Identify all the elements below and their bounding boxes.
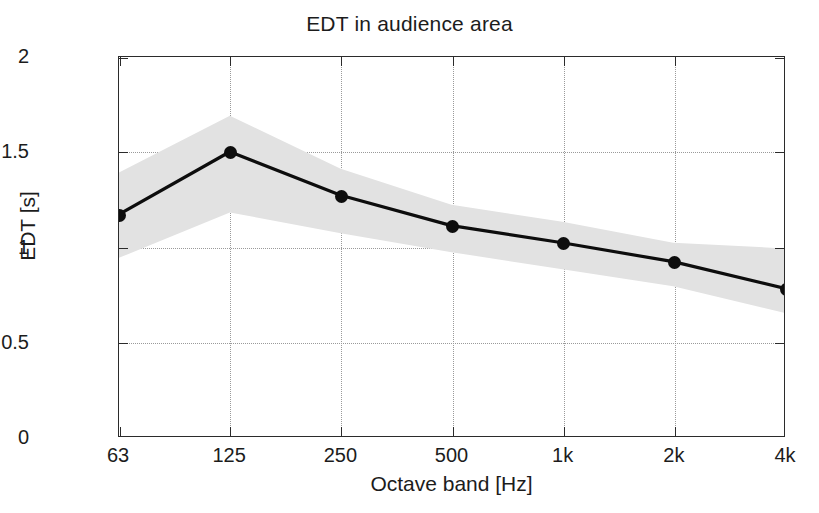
plot-area (118, 56, 785, 437)
x-tick-mark (453, 57, 454, 66)
data-line (119, 57, 784, 436)
chart-figure: EDT in audience area 00.511.52 631252505… (0, 0, 819, 513)
y-tick-mark (119, 58, 128, 59)
x-tick-label: 125 (212, 444, 245, 467)
data-point-marker (224, 146, 237, 159)
y-tick-mark (775, 248, 784, 249)
y-tick-mark (119, 248, 128, 249)
data-point-marker (335, 190, 348, 203)
x-tick-label: 1k (552, 444, 573, 467)
chart-title: EDT in audience area (0, 12, 819, 36)
x-tick-label: 250 (324, 444, 357, 467)
x-tick-mark (675, 427, 676, 436)
x-tick-mark (675, 57, 676, 66)
y-tick-label: 2 (0, 45, 29, 68)
data-point-marker (118, 209, 126, 222)
y-tick-mark (775, 343, 784, 344)
x-axis-label: Octave band [Hz] (118, 472, 785, 496)
x-tick-mark (341, 427, 342, 436)
y-tick-mark (119, 152, 128, 153)
y-axis-label: EDT [s] (16, 136, 40, 316)
x-tick-label: 63 (107, 444, 129, 467)
x-tick-label: 2k (663, 444, 684, 467)
y-tick-label: 0 (0, 426, 29, 449)
y-tick-mark (775, 152, 784, 153)
x-tick-mark (453, 427, 454, 436)
x-tick-mark (564, 57, 565, 66)
x-tick-mark (120, 427, 121, 436)
x-tick-mark (230, 427, 231, 436)
x-tick-label: 4k (774, 444, 795, 467)
x-tick-mark (564, 427, 565, 436)
x-tick-mark (341, 57, 342, 66)
x-tick-mark (230, 57, 231, 66)
y-tick-label: 0.5 (0, 330, 29, 353)
y-tick-mark (775, 58, 784, 59)
y-tick-mark (119, 343, 128, 344)
x-tick-label: 500 (435, 444, 468, 467)
data-point-marker (446, 220, 459, 233)
